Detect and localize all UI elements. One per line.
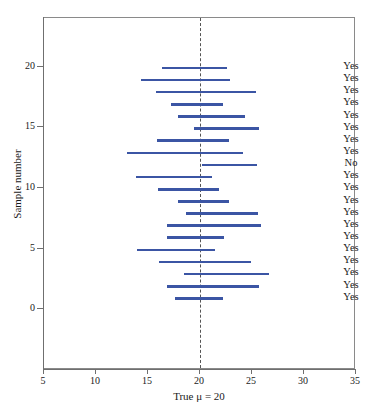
x-axis-tick-label: 25 [236, 375, 266, 387]
x-axis-tick [303, 369, 304, 374]
y-axis-line [43, 17, 44, 369]
x-axis-tick-label: 35 [340, 375, 370, 387]
capture-annotation-column: YesYesYesYesYesYesYesYesNoYesYesYesYesYe… [334, 18, 373, 370]
x-axis-tick-label: 10 [80, 375, 110, 387]
capture-label: Yes [334, 280, 368, 291]
confidence-interval-bar [167, 236, 224, 239]
y-axis-tick [37, 308, 43, 309]
confidence-interval-bar [156, 91, 256, 94]
x-axis-tick [43, 369, 44, 374]
confidence-interval-bar [141, 79, 230, 82]
confidence-interval-bar [194, 127, 260, 130]
confidence-interval-bar [159, 261, 251, 264]
capture-label: Yes [334, 146, 368, 157]
capture-label: Yes [334, 243, 368, 254]
confidence-interval-bar [171, 103, 223, 106]
capture-label: Yes [334, 292, 368, 303]
confidence-interval-bar [158, 188, 218, 191]
x-axis-tick [199, 369, 200, 374]
x-axis-tick-label: 30 [288, 375, 318, 387]
capture-label: Yes [334, 97, 368, 108]
capture-label: No [334, 158, 368, 169]
capture-label: Yes [334, 195, 368, 206]
capture-label: Yes [334, 61, 368, 72]
confidence-interval-bar [167, 224, 262, 227]
confidence-interval-bar [178, 200, 229, 203]
confidence-interval-figure: YesYesYesYesYesYesYesYesNoYesYesYesYesYe… [0, 0, 373, 413]
confidence-interval-bar [137, 249, 215, 252]
x-axis-tick [251, 369, 252, 374]
capture-label: Yes [334, 207, 368, 218]
confidence-interval-bar [167, 285, 260, 288]
x-axis-tick [95, 369, 96, 374]
capture-label: Yes [334, 219, 368, 230]
confidence-interval-bar [184, 273, 268, 276]
capture-label: Yes [334, 267, 368, 278]
y-axis-tick [37, 248, 43, 249]
confidence-interval-bar [175, 297, 223, 300]
confidence-interval-bar [157, 139, 229, 142]
confidence-interval-bar [162, 67, 228, 70]
x-axis-title: True μ = 20 [43, 390, 355, 402]
capture-label: Yes [334, 255, 368, 266]
confidence-interval-bar [186, 212, 258, 215]
capture-label: Yes [334, 231, 368, 242]
capture-label: Yes [334, 170, 368, 181]
capture-label: Yes [334, 85, 368, 96]
x-axis-tick [147, 369, 148, 374]
capture-label: Yes [334, 122, 368, 133]
capture-label: Yes [334, 182, 368, 193]
confidence-interval-bar [202, 164, 257, 167]
y-axis-tick [37, 66, 43, 67]
y-axis-tick-label: 0 [17, 303, 35, 313]
confidence-interval-bar [136, 176, 213, 179]
y-axis-tick-label: 5 [17, 243, 35, 253]
x-axis-tick-label: 20 [184, 375, 214, 387]
x-axis-tick-label: 15 [132, 375, 162, 387]
confidence-interval-bar [127, 152, 242, 155]
confidence-interval-bar [178, 115, 245, 118]
x-axis-tick [355, 369, 356, 374]
y-axis-tick-label: 20 [17, 61, 35, 71]
capture-label: Yes [334, 110, 368, 121]
y-axis-title: Sample number [11, 129, 23, 239]
capture-label: Yes [334, 73, 368, 84]
true-mean-reference-line [200, 18, 201, 368]
y-axis-tick [37, 126, 43, 127]
plot-area: YesYesYesYesYesYesYesYesNoYesYesYesYesYe… [43, 17, 355, 369]
y-axis-tick [37, 187, 43, 188]
capture-label: Yes [334, 134, 368, 145]
